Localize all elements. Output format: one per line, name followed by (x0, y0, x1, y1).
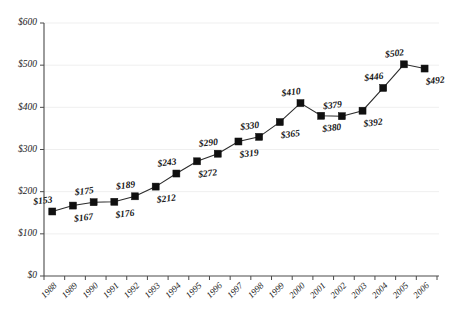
data-point-marker (256, 133, 263, 140)
chart-background (0, 0, 449, 316)
data-point-marker (194, 158, 201, 165)
data-point-marker (400, 61, 407, 68)
line-chart: $0$100$200$300$400$500$600 1988198919901… (0, 0, 449, 316)
data-point-marker (318, 112, 325, 119)
y-axis-tick-label: $600 (18, 17, 37, 27)
data-point-marker (276, 119, 283, 126)
data-point-marker (69, 202, 76, 209)
data-point-marker (111, 198, 118, 205)
chart-canvas: $0$100$200$300$400$500$600 1988198919901… (0, 0, 449, 316)
data-point-marker (235, 138, 242, 145)
y-axis-tick-label: $300 (18, 144, 37, 154)
y-axis-tick-label: $100 (18, 228, 37, 238)
data-point-marker (359, 107, 366, 114)
data-point-marker (421, 65, 428, 72)
y-axis-tick-label: $200 (18, 186, 37, 196)
data-point-marker (214, 150, 221, 157)
data-point-marker (380, 84, 387, 91)
y-axis-tick-label: $500 (18, 59, 37, 69)
y-axis-tick-label: $400 (18, 102, 37, 112)
data-point-marker (338, 113, 345, 120)
data-point-marker (49, 208, 56, 215)
data-point-marker (297, 100, 304, 107)
y-axis-tick-label: $0 (28, 270, 38, 280)
data-point-marker (90, 199, 97, 206)
data-point-marker (173, 170, 180, 177)
data-point-marker (132, 193, 139, 200)
data-point-marker (152, 183, 159, 190)
